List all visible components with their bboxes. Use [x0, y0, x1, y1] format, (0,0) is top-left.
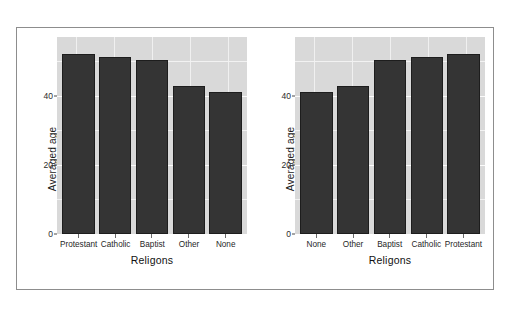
bar-slot [170, 37, 207, 234]
x-tick-mark [353, 234, 354, 238]
plot-area-left [57, 37, 247, 234]
x-tick-label: Catholic [97, 240, 134, 249]
x-tick-label: None [298, 240, 335, 249]
bar-slot [207, 37, 244, 234]
bar-slot [335, 37, 372, 234]
x-tick-mark [115, 234, 116, 238]
x-axis-labels-left: ProtestantCatholicBaptistOtherNone [57, 240, 247, 249]
figure-frame: Averaged age 02040 ProtestantCatholicBap… [16, 27, 494, 290]
bar-baptist [136, 60, 168, 234]
x-axis-title-right: Religons [295, 254, 485, 266]
x-tick-label: Other [335, 240, 372, 249]
bar-other [337, 86, 369, 234]
x-tick-label: Baptist [134, 240, 171, 249]
bar-baptist [374, 60, 406, 234]
y-tick-label: 20 [44, 160, 53, 170]
x-tick-mark [316, 234, 317, 238]
y-tick-label: 20 [282, 160, 291, 170]
x-axis-labels-right: NoneOtherBaptistCatholicProtestant [295, 240, 485, 249]
x-tick-mark [151, 234, 152, 238]
bar-slot [134, 37, 171, 234]
bar-slot [445, 37, 482, 234]
bar-other [173, 86, 205, 234]
bar-catholic [411, 57, 443, 234]
chart-panels-container: Averaged age 02040 ProtestantCatholicBap… [17, 28, 493, 289]
x-tick-label: Baptist [371, 240, 408, 249]
x-tick-mark [225, 234, 226, 238]
bar-protestant [447, 54, 479, 234]
bar-chart-left: Averaged age 02040 ProtestantCatholicBap… [17, 28, 255, 289]
bar-group-left [57, 37, 247, 234]
x-axis-title-left: Religons [57, 254, 247, 266]
y-tick-label: 40 [44, 91, 53, 101]
bar-catholic [99, 57, 131, 234]
bar-slot [372, 37, 409, 234]
bar-slot [60, 37, 97, 234]
x-tick-mark [389, 234, 390, 238]
bar-protestant [62, 54, 94, 234]
y-axis-ticks-left: 02040 [31, 37, 57, 289]
y-tick-label: 40 [282, 91, 291, 101]
x-tick-mark [426, 234, 427, 238]
bar-slot [298, 37, 335, 234]
bar-none [209, 92, 241, 234]
x-tick-label: Other [171, 240, 208, 249]
bar-slot [408, 37, 445, 234]
x-tick-mark [188, 234, 189, 238]
x-tick-mark [463, 234, 464, 238]
x-tick-label: Protestant [445, 240, 482, 249]
x-tick-label: Catholic [408, 240, 445, 249]
bar-slot [97, 37, 134, 234]
y-axis-ticks-right: 02040 [269, 37, 295, 289]
bar-none [300, 92, 332, 234]
bar-group-right [295, 37, 485, 234]
x-tick-mark [78, 234, 79, 238]
bar-chart-right: Averaged age 02040 NoneOtherBaptistCatho… [255, 28, 493, 289]
x-tick-label: Protestant [60, 240, 97, 249]
x-tick-label: None [207, 240, 244, 249]
y-tick-label: 0 [48, 229, 53, 239]
y-tick-label: 0 [286, 229, 291, 239]
plot-area-right [295, 37, 485, 234]
